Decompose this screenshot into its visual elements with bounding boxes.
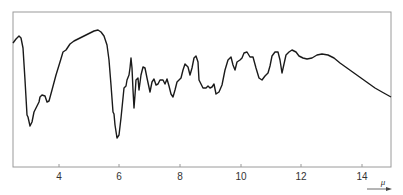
x-tick-label-8: 8 — [177, 171, 183, 182]
plot-frame — [13, 12, 391, 167]
x-tick-label-6: 6 — [116, 171, 122, 182]
x-tick-label-12: 12 — [295, 171, 307, 182]
arrow-right-icon — [367, 187, 392, 191]
x-tick-label-14: 14 — [356, 171, 368, 182]
x-tick-label-4: 4 — [56, 171, 62, 182]
spectrum-line — [13, 30, 391, 138]
spectrum-chart: 4 6 8 10 12 14 μ — [0, 0, 403, 195]
x-axis-unit-label: μ — [380, 177, 386, 187]
x-tick-label-10: 10 — [235, 171, 247, 182]
